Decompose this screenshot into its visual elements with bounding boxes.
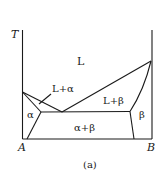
axis-label-t: T — [11, 28, 20, 41]
solidus-beta — [130, 61, 151, 112]
leader-line-l-alpha — [39, 94, 51, 104]
region-label-l-beta: L+β — [103, 95, 124, 106]
region-label-l-alpha: L+α — [52, 83, 74, 94]
solvus-beta — [130, 112, 134, 140]
region-label-alpha: α — [27, 109, 34, 120]
axis-label-b: B — [146, 141, 155, 154]
axis-label-a: A — [17, 141, 26, 154]
figure-caption: (a) — [83, 159, 97, 170]
region-label-l: L — [77, 55, 85, 68]
region-label-beta: β — [139, 109, 145, 120]
region-label-alpha-beta: α+β — [74, 122, 95, 133]
phase-diagram: T L L+α L+β α α+β β A B (a) — [0, 0, 168, 181]
eutectic-line — [41, 112, 130, 113]
